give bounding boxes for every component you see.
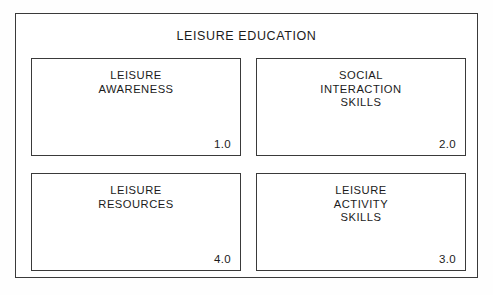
component-box-leisure-awareness: LEISURE AWARENESS 1.0 (31, 58, 241, 156)
component-box-social-interaction-skills: SOCIAL INTERACTION SKILLS 2.0 (256, 58, 466, 156)
component-label: SOCIAL INTERACTION SKILLS (257, 69, 465, 110)
component-box-leisure-resources: LEISURE RESOURCES 4.0 (31, 173, 241, 271)
component-number: 4.0 (214, 254, 231, 266)
component-number: 3.0 (439, 254, 456, 266)
component-number: 1.0 (214, 139, 231, 151)
component-label: LEISURE ACTIVITY SKILLS (257, 184, 465, 225)
component-label: LEISURE RESOURCES (32, 184, 240, 211)
component-label: LEISURE AWARENESS (32, 69, 240, 96)
diagram-title: LEISURE EDUCATION (16, 30, 477, 43)
component-number: 2.0 (439, 139, 456, 151)
leisure-education-frame: LEISURE EDUCATION LEISURE AWARENESS 1.0 … (15, 13, 478, 278)
diagram-canvas: LEISURE EDUCATION LEISURE AWARENESS 1.0 … (0, 0, 493, 295)
component-box-leisure-activity-skills: LEISURE ACTIVITY SKILLS 3.0 (256, 173, 466, 271)
